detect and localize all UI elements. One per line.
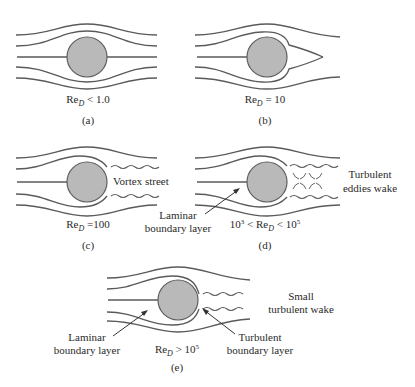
panel-caption-a: (a): [82, 114, 95, 127]
panel-caption-b: (b): [259, 114, 272, 127]
panel-a: ReD < 1.0 (a): [16, 24, 157, 127]
cylinder: [247, 162, 287, 202]
reynolds-label-e: ReD > 105: [155, 343, 200, 358]
reynolds-label-b: ReD = 10: [245, 93, 286, 108]
streamline: [16, 78, 157, 89]
turbulent-bl-label-line1: Turbulent: [239, 331, 282, 343]
turbulent-eddies-label-line2: eddies wake: [343, 182, 397, 194]
reynolds-label-c: ReD =100: [66, 218, 110, 233]
wake-wave: [290, 196, 338, 199]
streamline: [195, 24, 340, 37]
arrowhead-icon: [202, 308, 209, 315]
streamline: [16, 24, 157, 35]
vortex-wave: [111, 166, 159, 169]
wake-wave: [203, 293, 243, 296]
streamline: [107, 267, 250, 280]
wake-wave: [290, 165, 338, 168]
reynolds-label-a: ReD < 1.0: [66, 93, 110, 108]
vortex-wave: [111, 195, 159, 198]
laminar-label-line2: boundary layer: [145, 222, 212, 234]
turbulent-bl-label-line2: boundary layer: [227, 344, 294, 356]
vortex-street-label: Vortex street: [113, 175, 169, 187]
panel-d: Laminar boundary layer Turbulent eddies …: [145, 147, 397, 252]
cylinder: [67, 37, 107, 77]
flow-regimes-diagram: ReD < 1.0 (a) ReD = 10 (b) Vortex street…: [0, 0, 415, 387]
small-wake-label-line1: Small: [288, 290, 314, 302]
panel-c: Vortex street ReD =100 (c): [16, 147, 169, 252]
wake-wave: [203, 308, 243, 311]
panel-b: ReD = 10 (b): [195, 24, 340, 127]
panel-caption-c: (c): [82, 239, 95, 252]
streamline: [195, 77, 340, 89]
cylinder: [67, 162, 107, 202]
laminar-label-line1: Laminar: [68, 331, 106, 343]
laminar-label-line1: Laminar: [159, 209, 197, 221]
streamline: [107, 319, 250, 332]
turbulent-eddies-icon: [293, 173, 322, 189]
reynolds-label-d: 103 < ReD < 105: [230, 218, 301, 233]
panel-caption-d: (d): [259, 239, 272, 252]
cylinder: [158, 280, 198, 320]
small-wake-label-line2: turbulent wake: [268, 303, 334, 315]
cylinder: [247, 37, 287, 77]
panel-caption-e: (e): [171, 361, 184, 374]
turbulent-eddies-label-line1: Turbulent: [349, 168, 392, 180]
laminar-label-line2: boundary layer: [54, 344, 121, 356]
panel-e: Laminar boundary layer Turbulent boundar…: [54, 267, 334, 374]
